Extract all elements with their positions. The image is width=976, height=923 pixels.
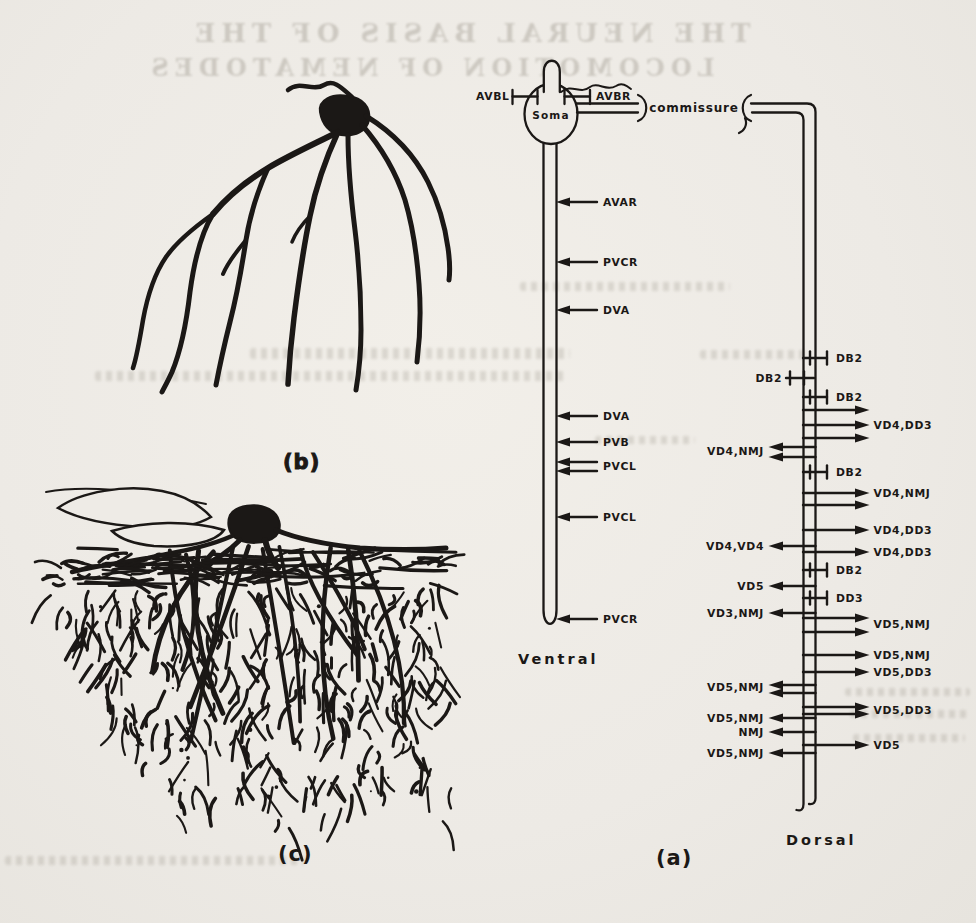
panel-b-label: (b) <box>283 450 320 474</box>
dendrite <box>348 135 361 390</box>
dorsal-synapse: DB2 <box>803 352 863 366</box>
dorsal-synapse: VD5,NMJ <box>707 680 815 697</box>
dorsal-synapse: VD4,VD4 <box>706 540 815 553</box>
ventral-synapse: PVCR <box>556 256 638 269</box>
dorsal-synapse: VD5 <box>803 739 900 752</box>
dorsal-synapse-list: DB2DB2DB2VD4,DD3VD4,NMJDB2VD4,NMJVD4,DD3… <box>706 352 932 761</box>
synapse-label: VD5,NMJ <box>707 712 764 725</box>
neuron-soma-blob <box>228 505 279 543</box>
synapse-label: DB2 <box>836 391 863 404</box>
ventral-synapse-list: AVARPVCRDVADVAPVBPVCLPVCLPVCR <box>556 196 638 626</box>
panel-b-neuron-drawing: (b) <box>133 83 450 474</box>
synapse-label: VD5 <box>874 739 901 752</box>
synapse-label: DD3 <box>836 592 863 605</box>
dorsal-synapse: VD5,NMJ <box>803 649 930 662</box>
ventral-synapse: DVA <box>556 410 630 423</box>
synapse-label: VD4,NMJ <box>707 445 764 458</box>
synapse-label: VD4,NMJ <box>874 487 931 500</box>
avbl-label: AVBL <box>476 90 510 103</box>
dorsal-synapse: VD5,DD3 <box>803 702 932 718</box>
commissure-bracket <box>638 95 646 121</box>
dorsal-cord-inner <box>752 113 804 811</box>
synapse-label: DVA <box>603 304 630 317</box>
dendrite <box>162 214 213 392</box>
dendritic-mass <box>32 546 464 860</box>
synapse-label: AVAR <box>603 196 637 209</box>
dorsal-synapse: VD5,DD3 <box>803 666 932 679</box>
dorsal-synapse: VD3,NMJ <box>707 607 815 620</box>
dorsal-synapse: VD5,NMJ <box>707 712 815 725</box>
synapse-label: VD4,DD3 <box>874 546 933 559</box>
figure-artwork: (b) (c) <box>0 0 976 923</box>
ventral-synapse: PVB <box>556 436 629 449</box>
dorsal-synapse: VD4,DD3 <box>803 546 932 559</box>
synapse-label: PVB <box>603 436 629 449</box>
dorsal-synapse: VD5,NMJ <box>707 747 815 760</box>
dorsal-cord-label: Dorsal <box>786 832 857 848</box>
synapse-label: DB2 <box>836 352 863 365</box>
dorsal-synapse: VD4,DD3 <box>803 524 932 537</box>
synapse-label: DB2 <box>836 564 863 577</box>
dorsal-synapse: VD4,NMJ <box>707 442 815 461</box>
scanned-book-page: THE NEURAL BASIS OF THE LOCOMOTION OF NE… <box>0 0 976 923</box>
dendrite <box>366 116 450 280</box>
dorsal-synapse: DD3 <box>803 592 863 606</box>
synapse-label: DB2 <box>836 466 863 479</box>
soma-label: Soma <box>532 109 570 121</box>
synapse-label: VD5,DD3 <box>874 704 933 717</box>
ventral-synapse: AVAR <box>556 196 637 209</box>
synapse-label: DVA <box>603 410 630 423</box>
panel-a-schematic: Soma AVBL AVBR commissure Ventral Dorsal… <box>476 61 932 870</box>
ventral-cord-label: Ventral <box>518 651 598 667</box>
commissure-bracket <box>739 95 751 133</box>
panel-c-label: (c) <box>278 842 313 866</box>
cell-outline <box>58 488 211 527</box>
synapse-label: PVCL <box>603 511 636 524</box>
synapse-label: PVCR <box>603 256 638 269</box>
synapse-label: PVCL <box>603 460 636 473</box>
ventral-synapse: PVCL <box>556 511 636 524</box>
dorsal-synapse: VD4,DD3 <box>803 405 932 442</box>
synapse-label: VD5 <box>737 580 764 593</box>
ventral-synapse: PVCR <box>556 613 638 626</box>
dorsal-synapse: DB2 <box>803 391 863 405</box>
dendrite <box>362 125 420 362</box>
synapse-label: NMJ <box>738 726 764 739</box>
synapse-label: VD5,NMJ <box>874 649 931 662</box>
dorsal-synapse: DB2 <box>755 372 814 386</box>
dorsal-synapse: DB2 <box>803 466 863 480</box>
panel-c-neuron-drawing: (c) <box>32 488 464 866</box>
ventral-synapse: PVCL <box>556 457 636 475</box>
dendrite <box>288 132 338 384</box>
ventral-cord <box>544 140 557 624</box>
commissure-label: commissure <box>649 101 738 115</box>
main-trunk <box>276 530 446 550</box>
dorsal-synapse: VD4,NMJ <box>803 487 930 510</box>
synapse-label: VD5,NMJ <box>874 618 931 631</box>
neuron-soma-blob <box>320 95 369 135</box>
avbr-label: AVBR <box>596 90 631 103</box>
synapse-label: VD5,NMJ <box>707 681 764 694</box>
synapse-label: VD4,VD4 <box>706 540 764 553</box>
synapse-label: VD5,NMJ <box>707 747 764 760</box>
synapse-label: VD4,DD3 <box>874 419 933 432</box>
synapse-label: VD5,DD3 <box>874 666 933 679</box>
panel-a-label: (a) <box>656 846 692 870</box>
synapse-label: VD4,DD3 <box>874 524 933 537</box>
synapse-label: VD3,NMJ <box>707 607 764 620</box>
ventral-synapse: DVA <box>556 304 630 317</box>
synapse-label: DB2 <box>755 372 782 385</box>
dorsal-synapse: VD5,NMJ <box>803 613 930 636</box>
soma-neck <box>544 61 560 92</box>
dorsal-synapse: DB2 <box>803 564 863 578</box>
synapse-label: PVCR <box>603 613 638 626</box>
